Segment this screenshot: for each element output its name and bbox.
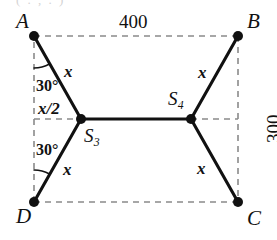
edge-length-label-D-S3: x xyxy=(63,161,72,178)
angle-label-at-A: 30° xyxy=(36,78,58,94)
vertex-dot-B xyxy=(233,31,243,41)
dimension-label-height: 300 xyxy=(264,115,277,144)
vertex-label-C: C xyxy=(247,208,261,229)
vertex-dot-S4 xyxy=(186,114,196,124)
angle-arc-at-D xyxy=(34,170,50,174)
node-label-S3-letter: S xyxy=(84,125,94,146)
vertex-dot-A xyxy=(29,31,39,41)
vertex-dot-C xyxy=(233,197,243,207)
node-label-S3-subscript: 3 xyxy=(94,136,100,149)
vertex-dot-S3 xyxy=(76,114,86,124)
diagram-canvas xyxy=(0,0,277,240)
node-label-S4: S4 xyxy=(168,89,183,108)
edge-D-S3 xyxy=(34,119,81,202)
node-label-S4-subscript: 4 xyxy=(178,99,184,112)
angle-arc-at-A xyxy=(34,64,50,68)
dimension-label-width: 400 xyxy=(119,12,148,31)
geometry-figure: ( . , . ) xyxy=(0,0,277,240)
node-label-S4-letter: S xyxy=(168,88,178,109)
vertex-label-D: D xyxy=(16,206,31,227)
edge-length-label-A-S3: x xyxy=(64,63,73,80)
angle-label-at-D: 30° xyxy=(36,142,58,158)
edge-length-label-S4-B: x xyxy=(198,64,207,81)
node-label-S3: S3 xyxy=(84,126,99,145)
vertex-label-A: A xyxy=(16,11,29,32)
edge-length-label-half: x/2 xyxy=(38,100,60,117)
vertex-label-B: B xyxy=(247,11,260,32)
edge-length-label-S4-C: x xyxy=(197,160,206,177)
